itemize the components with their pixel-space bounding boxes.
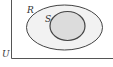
venn-svg: R S U xyxy=(0,0,113,67)
universe-label: U xyxy=(2,49,10,59)
set-r-label: R xyxy=(26,5,34,15)
venn-diagram: R S U xyxy=(0,0,113,67)
set-s-label: S xyxy=(45,14,51,24)
set-s-ellipse xyxy=(50,12,85,41)
